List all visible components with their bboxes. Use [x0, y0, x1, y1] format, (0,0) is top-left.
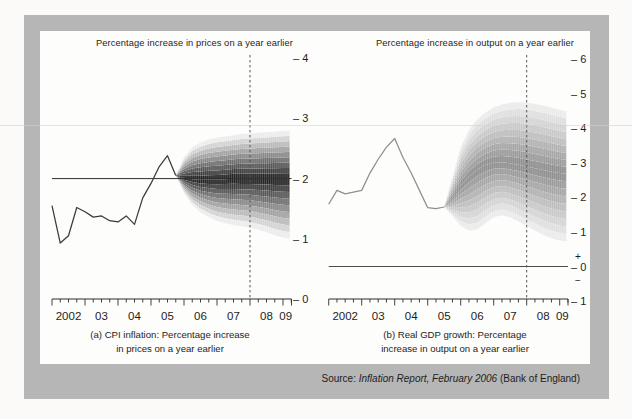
cpi-inflation-history-line — [52, 156, 176, 243]
x-tick-label: 09 — [279, 310, 292, 322]
real-gdp-growth-history-line — [329, 138, 445, 208]
left-chart-title: Percentage increase in prices on a year … — [96, 38, 293, 48]
source-prefix: Source: — [322, 373, 359, 384]
figure-page: 200203040506070809– 4– 3– 2– 1– 02002030… — [0, 0, 632, 419]
x-tick-label: 08 — [260, 310, 273, 322]
real-gdp-growth-plot: 200203040506070809– 6– 5– 4– 3– 2– 1– 0–… — [329, 53, 587, 322]
y-tick-label: – 5 — [571, 88, 586, 100]
right-caption-line1: (b) Real GDP growth: Percentage — [340, 328, 570, 342]
y-tick-label: – 4 — [293, 52, 308, 64]
cpi-inflation-plot: 200203040506070809– 4– 3– 2– 1– 0 — [52, 52, 308, 321]
x-tick-label: 04 — [405, 310, 418, 322]
source-suffix: (Bank of England) — [497, 373, 580, 384]
y-tick-label: – 1 — [571, 226, 586, 238]
right-chart-title: Percentage increase in output on a year … — [376, 38, 574, 48]
y-tick-label: – 0 — [293, 293, 308, 305]
x-tick-label: 08 — [537, 310, 550, 322]
zero-minus-mark: − — [575, 275, 581, 286]
source-citation: Inflation Report, February 2006 — [359, 373, 497, 384]
scan-artifact-line — [0, 125, 632, 126]
x-tick-label: 07 — [504, 310, 517, 322]
y-tick-label: – 3 — [571, 157, 586, 169]
y-tick-label: – 2 — [293, 173, 308, 185]
left-caption-line2: in prices on a year earlier — [55, 342, 285, 356]
fan-charts-canvas: 200203040506070809– 4– 3– 2– 1– 02002030… — [0, 0, 632, 419]
right-chart-caption: (b) Real GDP growth: Percentage increase… — [340, 328, 570, 355]
zero-plus-mark: + — [575, 251, 581, 262]
x-tick-label: 07 — [227, 310, 240, 322]
y-tick-label: – 1 — [293, 233, 308, 245]
y-tick-label: – 0 — [571, 261, 586, 273]
left-caption-line1: (a) CPI inflation: Percentage increase — [55, 328, 285, 342]
y-tick-label: – 1 — [571, 295, 586, 307]
source-note: Source: Inflation Report, February 2006 … — [322, 373, 581, 384]
left-chart-caption: (a) CPI inflation: Percentage increase i… — [55, 328, 285, 355]
y-tick-label: – 4 — [571, 122, 586, 134]
x-tick-label: 2002 — [56, 310, 82, 322]
x-tick-label: 06 — [471, 310, 484, 322]
x-tick-label: 09 — [556, 310, 569, 322]
y-tick-label: – 3 — [293, 112, 308, 124]
right-caption-line2: increase in output on a year earlier — [340, 342, 570, 356]
y-tick-label: – 6 — [571, 53, 586, 65]
y-tick-label: – 2 — [571, 191, 586, 203]
x-tick-label: 05 — [438, 310, 451, 322]
x-tick-label: 04 — [128, 310, 141, 322]
x-tick-label: 05 — [161, 310, 174, 322]
x-tick-label: 06 — [194, 310, 207, 322]
x-tick-label: 2002 — [332, 310, 358, 322]
x-tick-label: 03 — [95, 310, 108, 322]
x-tick-label: 03 — [372, 310, 385, 322]
